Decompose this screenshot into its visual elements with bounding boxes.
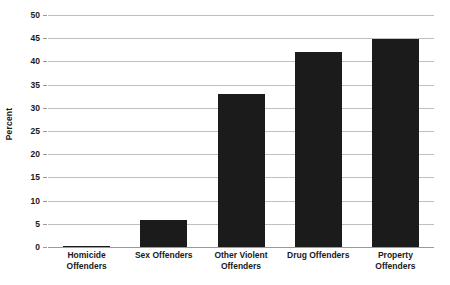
bar: [218, 94, 265, 247]
x-axis-category-labels: Homicide OffendersSex OffendersOther Vio…: [48, 250, 434, 282]
x-axis-category-label: Other Violent Offenders: [202, 250, 279, 273]
bar: [140, 220, 187, 247]
y-axis-tick-mark: [43, 61, 47, 62]
y-axis-tick-mark: [43, 154, 47, 155]
y-axis-tick-mark: [43, 247, 47, 248]
bar-chart: Percent 05101520253035404550 Homicide Of…: [0, 0, 450, 285]
y-axis-tick-label: 20: [0, 150, 40, 159]
gridline: [48, 247, 434, 248]
gridline: [48, 15, 434, 16]
y-axis-tick-label: 45: [0, 34, 40, 43]
y-axis-tick-mark: [43, 201, 47, 202]
y-axis-tick-label: 15: [0, 173, 40, 182]
y-axis-tick-mark: [43, 131, 47, 132]
y-axis-tick-mark: [43, 85, 47, 86]
y-axis-tick-label: 10: [0, 196, 40, 205]
y-axis-tick-label: 25: [0, 127, 40, 136]
x-axis-category-label: Drug Offenders: [280, 250, 357, 261]
y-axis-tick-labels: 05101520253035404550: [0, 15, 40, 247]
y-axis-tick-label: 5: [0, 220, 40, 229]
x-axis-category-label: Sex Offenders: [125, 250, 202, 261]
x-axis-category-label: Property Offenders: [357, 250, 434, 273]
y-axis-tick-label: 50: [0, 11, 40, 20]
y-axis-tick-mark: [43, 108, 47, 109]
y-axis-tick-label: 30: [0, 104, 40, 113]
bar: [372, 39, 419, 247]
plot-area: [48, 15, 434, 247]
y-axis-tick-label: 0: [0, 243, 40, 252]
y-axis-tick-label: 35: [0, 80, 40, 89]
bar: [63, 246, 110, 247]
bar: [295, 52, 342, 247]
y-axis-tick-mark: [43, 15, 47, 16]
y-axis-tick-mark: [43, 224, 47, 225]
x-axis-category-label: Homicide Offenders: [48, 250, 125, 273]
y-axis-tick-mark: [43, 177, 47, 178]
y-axis-tick-mark: [43, 38, 47, 39]
y-axis-tick-label: 40: [0, 57, 40, 66]
